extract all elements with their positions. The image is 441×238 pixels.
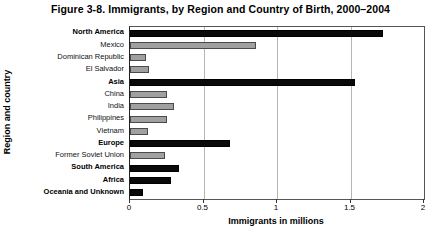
category-label: Mexico xyxy=(16,38,127,50)
bar-row xyxy=(130,27,424,39)
bar-row xyxy=(130,52,424,64)
bar xyxy=(130,128,148,135)
x-axis-tick-label: 2 xyxy=(421,203,425,212)
bar-row xyxy=(130,150,424,162)
bar xyxy=(130,103,174,110)
category-label: Europe xyxy=(16,137,127,149)
category-label: Philippines xyxy=(16,112,127,124)
category-label: India xyxy=(16,100,127,112)
x-axis-tick-label: 1 xyxy=(274,203,278,212)
category-label: Dominican Republic xyxy=(16,51,127,63)
chart-title: Figure 3-8. Immigrants, by Region and Co… xyxy=(0,3,441,15)
bar xyxy=(130,177,171,184)
bar-row xyxy=(130,101,424,113)
bar-row xyxy=(130,113,424,125)
bar xyxy=(130,91,167,98)
bar-row xyxy=(130,76,424,88)
bar-row xyxy=(130,125,424,137)
category-label: China xyxy=(16,87,127,99)
bar-row xyxy=(130,39,424,51)
bar xyxy=(130,165,179,172)
y-axis-title-label: Region and country xyxy=(2,70,12,155)
bar xyxy=(130,189,143,196)
bar xyxy=(130,79,355,86)
y-axis-title: Region and country xyxy=(0,26,14,198)
plot-area xyxy=(129,26,425,200)
bar xyxy=(130,54,146,61)
x-axis-tick-label: 0 xyxy=(127,203,131,212)
bar xyxy=(130,116,167,123)
bar-row xyxy=(130,174,424,186)
bar-row xyxy=(130,138,424,150)
figure-container: Figure 3-8. Immigrants, by Region and Co… xyxy=(0,0,441,238)
category-label: Former Soviet Union xyxy=(16,149,127,161)
category-label: North America xyxy=(16,26,127,38)
x-axis-tick-label: 0.5 xyxy=(197,203,208,212)
x-axis-tick-labels: 00.511.52 xyxy=(129,203,425,215)
category-label: Asia xyxy=(16,75,127,87)
bar-series xyxy=(130,27,424,199)
bar xyxy=(130,66,149,73)
bar-row xyxy=(130,88,424,100)
bar xyxy=(130,30,383,37)
bar xyxy=(130,42,256,49)
category-label: South America xyxy=(16,161,127,173)
category-label: Africa xyxy=(16,173,127,185)
bar xyxy=(130,152,165,159)
x-axis-title: Immigrants in millions xyxy=(129,216,423,226)
category-label: Vietnam xyxy=(16,124,127,136)
category-label: Oceania and Unknown xyxy=(16,186,127,198)
bar xyxy=(130,140,230,147)
x-axis-tick-label: 1.5 xyxy=(344,203,355,212)
category-label-column: North AmericaMexicoDominican RepublicEl … xyxy=(16,26,127,198)
bar-row xyxy=(130,162,424,174)
bar-row xyxy=(130,64,424,76)
bar-row xyxy=(130,187,424,199)
category-label: El Salvador xyxy=(16,63,127,75)
